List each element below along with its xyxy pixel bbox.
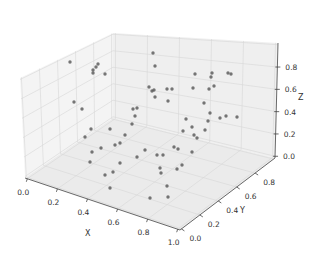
data-point: [191, 86, 194, 89]
x-tick: [56, 189, 57, 192]
y-tick-label: 0.4: [226, 206, 238, 215]
data-point: [148, 196, 151, 199]
data-point: [175, 167, 178, 170]
data-point: [166, 99, 169, 102]
x-tick-label: 0.0: [17, 188, 29, 197]
data-point: [206, 119, 209, 122]
x-tick-label: 1.0: [168, 238, 180, 247]
data-point: [153, 64, 156, 67]
y-tick: [237, 187, 240, 189]
x-tick: [86, 199, 87, 202]
x-tick-label: 0.8: [138, 228, 150, 237]
data-point: [133, 114, 136, 117]
data-point: [96, 62, 99, 65]
data-point: [80, 107, 83, 110]
data-point: [166, 195, 169, 198]
data-point: [190, 125, 193, 128]
data-point: [226, 71, 229, 74]
y-tick: [181, 229, 184, 231]
x-tick: [177, 229, 178, 232]
data-point: [91, 71, 94, 74]
data-point: [170, 87, 173, 90]
data-point: [203, 128, 206, 131]
data-point: [158, 166, 161, 169]
data-point: [111, 170, 114, 173]
data-point: [172, 145, 175, 148]
z-axis-label: Z: [298, 93, 304, 102]
x-tick-label: 0.4: [77, 208, 89, 217]
y-tick-label: 0.8: [263, 178, 275, 187]
data-point: [89, 127, 92, 130]
x-tick-label: 0.6: [108, 218, 120, 227]
data-point: [118, 141, 121, 144]
data-point: [195, 136, 198, 139]
y-tick-label: 0.0: [189, 234, 201, 243]
data-point: [118, 161, 121, 164]
data-point: [184, 117, 187, 120]
data-point: [135, 155, 138, 158]
data-point: [155, 153, 158, 156]
data-point: [224, 114, 227, 117]
data-point: [209, 75, 212, 78]
data-point: [108, 186, 111, 189]
data-point: [130, 122, 133, 125]
x-tick: [147, 219, 148, 222]
data-point: [103, 72, 106, 75]
z-tick-label: 0.2: [284, 130, 296, 139]
y-tick-label: 0.2: [208, 220, 220, 229]
data-point: [131, 107, 134, 110]
y-tick: [200, 215, 203, 217]
data-point: [151, 51, 154, 54]
data-point: [159, 171, 162, 174]
data-point: [72, 100, 75, 103]
data-point: [207, 87, 210, 90]
y-tick: [218, 201, 221, 203]
data-point: [190, 150, 193, 153]
data-point: [68, 60, 71, 63]
x-axis-label: X: [85, 229, 91, 238]
data-point: [94, 65, 97, 68]
y-tick-label: 0.6: [245, 192, 257, 201]
z-tick-label: 0.6: [285, 85, 297, 94]
data-point: [235, 115, 238, 118]
data-point: [103, 173, 106, 176]
data-point: [212, 84, 215, 87]
data-point: [165, 87, 168, 90]
data-point: [113, 143, 116, 146]
data-point: [147, 85, 150, 88]
data-point: [202, 101, 205, 104]
x-tick: [117, 209, 118, 212]
data-point: [192, 133, 195, 136]
y-tick: [255, 173, 258, 175]
data-point: [210, 71, 213, 74]
scatter3d-plot: 0.00.20.40.60.81.00.00.20.40.60.80.00.20…: [0, 0, 314, 260]
data-point: [218, 116, 221, 119]
data-point: [180, 163, 183, 166]
data-point: [161, 153, 164, 156]
x-tick: [26, 179, 27, 182]
y-axis-label: Y: [239, 206, 245, 215]
data-point: [176, 147, 179, 150]
data-point: [90, 150, 93, 153]
data-point: [88, 160, 91, 163]
z-tick-label: 0.4: [284, 108, 296, 117]
data-point: [153, 95, 156, 98]
data-point: [99, 146, 102, 149]
data-point: [181, 129, 184, 132]
z-tick-label: 0.0: [283, 152, 295, 161]
data-point: [208, 111, 211, 114]
x-tick-label: 0.2: [47, 198, 59, 207]
data-point: [123, 133, 126, 136]
data-point: [91, 68, 94, 71]
data-point: [165, 184, 168, 187]
data-point: [193, 72, 196, 75]
data-point: [83, 135, 86, 138]
data-point: [108, 127, 111, 130]
data-point: [229, 72, 232, 75]
data-point: [152, 88, 155, 91]
data-point: [135, 106, 138, 109]
z-tick-label: 0.8: [285, 63, 297, 72]
data-point: [143, 148, 146, 151]
